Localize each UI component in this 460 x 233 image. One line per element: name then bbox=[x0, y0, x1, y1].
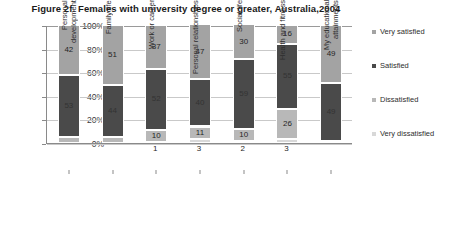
bar-segment-value: 59 bbox=[239, 90, 248, 98]
legend-item[interactable]: Dissatisfied bbox=[372, 96, 460, 130]
legend-swatch-icon bbox=[372, 64, 376, 68]
x-axis-label-wrap: Family life bbox=[90, 0, 134, 74]
bar-segment-very-dissatisfied[interactable] bbox=[233, 141, 255, 143]
bar-segment-very-dissatisfied[interactable] bbox=[276, 139, 298, 143]
bar-segment-value: 49 bbox=[327, 108, 336, 116]
x-axis-category-label: Work or career bbox=[148, 0, 162, 74]
bar-segment-value: 10 bbox=[152, 132, 161, 140]
x-axis-label-wrap: Health and fitness bbox=[265, 0, 309, 74]
bar-segment-satisfied[interactable]: 44 bbox=[102, 85, 124, 137]
bar-segment-value: 11 bbox=[196, 129, 204, 137]
x-axis-tick bbox=[68, 170, 69, 174]
bar-segment-satisfied[interactable]: 49 bbox=[320, 83, 342, 141]
x-axis-tick bbox=[112, 170, 113, 174]
legend-swatch-icon bbox=[372, 98, 376, 102]
bar-segment-very-dissatisfied-value: 1 bbox=[153, 145, 157, 153]
x-axis-label-wrap: My educational attainments bbox=[308, 0, 352, 74]
bar-segment-satisfied[interactable]: 53 bbox=[58, 75, 80, 138]
x-axis-category-label: Personal relationships bbox=[192, 0, 206, 74]
bar-segment-very-dissatisfied[interactable] bbox=[189, 139, 211, 143]
x-axis-label-wrap: Personal relationships bbox=[177, 0, 221, 74]
x-axis-tick bbox=[287, 170, 288, 174]
bar-segment-dissatisfied[interactable]: 10 bbox=[145, 130, 167, 142]
x-axis-category-label: Family life bbox=[105, 0, 119, 74]
chart-container: Figure 2f. Females with university degre… bbox=[0, 0, 460, 233]
legend-label: Very satisfied bbox=[380, 28, 425, 36]
bar-segment-dissatisfied[interactable]: 10 bbox=[233, 129, 255, 141]
x-axis-label-wrap: Personal development bbox=[46, 0, 90, 74]
legend-item[interactable]: Very satisfied bbox=[372, 28, 460, 62]
legend-swatch-icon bbox=[372, 30, 376, 34]
legend-item[interactable]: Very dissatisfied bbox=[372, 130, 460, 164]
bar-segment-very-dissatisfied-value: 3 bbox=[284, 145, 288, 153]
legend-swatch-icon bbox=[372, 132, 376, 136]
x-axis-tick bbox=[199, 170, 200, 174]
bar-segment-satisfied[interactable]: 52 bbox=[145, 69, 167, 130]
x-axis-category-label: Health and fitness bbox=[279, 0, 293, 74]
legend-label: Very dissatisfied bbox=[380, 130, 434, 138]
bar-segment-dissatisfied[interactable] bbox=[320, 141, 342, 143]
x-axis-tick bbox=[243, 170, 244, 174]
x-axis-category-label: My educational attainments bbox=[323, 0, 337, 74]
bar-segment-value: 26 bbox=[283, 120, 292, 128]
bar-segment-value: 53 bbox=[64, 102, 73, 110]
bar-segment-dissatisfied[interactable]: 11 bbox=[189, 127, 211, 140]
x-axis-tick bbox=[156, 170, 157, 174]
legend-item[interactable]: Satisfied bbox=[372, 62, 460, 96]
x-axis-category-label: Social life bbox=[236, 0, 250, 74]
bar-segment-dissatisfied[interactable] bbox=[102, 137, 124, 143]
x-axis-category-label: Personal development bbox=[61, 0, 75, 74]
bar-segment-value: 40 bbox=[196, 99, 205, 107]
x-axis-tick bbox=[331, 170, 332, 174]
x-axis-label-wrap: Work or career bbox=[133, 0, 177, 74]
bar-segment-value: 52 bbox=[152, 95, 161, 103]
bar-segment-very-dissatisfied-value: 2 bbox=[240, 145, 244, 153]
bar-segment-very-dissatisfied-value: 3 bbox=[197, 145, 201, 153]
y-axis-tick bbox=[42, 144, 46, 145]
chart-legend: Very satisfiedSatisfiedDissatisfiedVery … bbox=[372, 28, 460, 164]
x-axis-label-wrap: Social life bbox=[221, 0, 265, 74]
bar-segment-dissatisfied[interactable]: 26 bbox=[276, 109, 298, 140]
bar-segment-satisfied[interactable]: 40 bbox=[189, 79, 211, 126]
bar-segment-value: 10 bbox=[239, 131, 248, 139]
bar-segment-dissatisfied[interactable] bbox=[58, 137, 80, 143]
legend-label: Dissatisfied bbox=[380, 96, 418, 104]
legend-label: Satisfied bbox=[380, 62, 409, 70]
bar-segment-value: 44 bbox=[108, 107, 117, 115]
